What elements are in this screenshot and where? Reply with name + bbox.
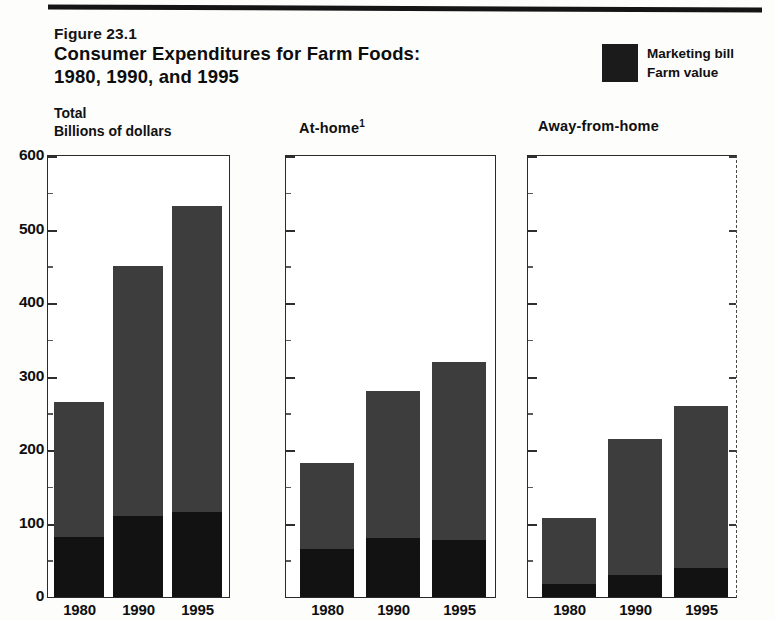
- axis-minor-tick-450: [286, 266, 291, 268]
- y-tick-label-500: 500: [19, 220, 44, 238]
- axis-tick-right-100: [729, 524, 736, 526]
- x-tick-label-at-home-1995: 1995: [443, 601, 476, 618]
- panel-title-at-home-footnote: 1: [359, 118, 365, 129]
- axis-tick-right-300: [729, 377, 736, 379]
- axis-tick-500: [286, 230, 295, 232]
- bar-segment-farm-value: [366, 538, 420, 597]
- bar-segment-marketing-bill: [608, 439, 662, 575]
- bar-away-from-home-1990: [608, 439, 662, 597]
- axis-tick-500: [48, 230, 57, 232]
- axis-minor-tick-550: [286, 193, 291, 195]
- axis-tick-200: [528, 450, 537, 452]
- bar-segment-marketing-bill: [300, 463, 354, 549]
- axis-minor-tick-350: [286, 340, 291, 342]
- bar-segment-marketing-bill: [366, 391, 420, 538]
- axis-minor-tick-550: [48, 193, 53, 195]
- x-tick-label-at-home-1990: 1990: [377, 601, 410, 618]
- figure-title-line-1: Consumer Expenditures for Farm Foods:: [54, 43, 574, 66]
- bar-total-1995: [172, 206, 222, 597]
- axis-minor-tick-450: [48, 266, 53, 268]
- bar-segment-farm-value: [608, 575, 662, 597]
- figure-title-line-2: 1980, 1990, and 1995: [54, 66, 574, 89]
- x-tick-label-away-from-home-1990: 1990: [619, 601, 652, 618]
- bar-total-1980: [54, 402, 104, 597]
- axis-minor-tick-50: [48, 560, 53, 562]
- axis-minor-tick-250: [528, 413, 533, 415]
- top-rule-divider: [48, 4, 762, 12]
- panel-away-from-home-plot-area: [528, 156, 736, 597]
- figure-container: Figure 23.1 Consumer Expenditures for Fa…: [0, 0, 775, 620]
- y-tick-label-400: 400: [19, 293, 44, 311]
- x-tick-label-total-1980: 1980: [63, 601, 96, 618]
- axis-tick-400: [528, 303, 537, 305]
- bar-segment-farm-value: [172, 512, 222, 597]
- panel-away-from-home: [527, 155, 737, 598]
- axis-minor-tick-450: [528, 266, 533, 268]
- bar-segment-marketing-bill: [113, 266, 163, 516]
- bar-at-home-1990: [366, 391, 420, 597]
- axis-tick-300: [286, 377, 295, 379]
- panel-title-at-home: At-home1: [299, 118, 365, 136]
- axis-tick-600: [528, 156, 537, 158]
- legend-item-farm-value: Farm value: [647, 63, 734, 82]
- axis-tick-400: [286, 303, 295, 305]
- bar-away-from-home-1980: [542, 518, 596, 597]
- axis-minor-tick-50: [528, 560, 533, 562]
- bar-segment-farm-value: [542, 584, 596, 597]
- axis-tick-right-400: [729, 303, 736, 305]
- legend-label-group: Marketing bill Farm value: [647, 44, 734, 82]
- axis-tick-right-200: [729, 450, 736, 452]
- axis-tick-right-600: [729, 156, 736, 158]
- axis-tick-600: [286, 156, 295, 158]
- y-tick-label-100: 100: [19, 514, 44, 532]
- bar-segment-farm-value: [674, 568, 728, 597]
- y-tick-label-0: 0: [36, 587, 44, 605]
- bar-segment-marketing-bill: [432, 362, 486, 540]
- bar-segment-farm-value: [300, 549, 354, 597]
- axis-minor-tick-50: [286, 560, 291, 562]
- axis-minor-tick-250: [286, 413, 291, 415]
- axis-minor-tick-250: [48, 413, 53, 415]
- bar-total-1990: [113, 266, 163, 597]
- axis-minor-tick-350: [528, 340, 533, 342]
- panel-title-at-home-text: At-home: [299, 120, 359, 136]
- axis-minor-tick-150: [286, 487, 291, 489]
- bar-away-from-home-1995: [674, 406, 728, 597]
- figure-heading: Figure 23.1 Consumer Expenditures for Fa…: [54, 24, 574, 88]
- bar-segment-farm-value: [113, 516, 163, 597]
- panel-at-home: [285, 155, 496, 598]
- axis-tick-100: [528, 524, 537, 526]
- bar-segment-marketing-bill: [542, 518, 596, 583]
- bar-segment-marketing-bill: [172, 206, 222, 512]
- axis-minor-tick-150: [48, 487, 53, 489]
- bar-segment-farm-value: [432, 540, 486, 597]
- x-tick-label-at-home-1980: 1980: [311, 601, 344, 618]
- axis-tick-200: [286, 450, 295, 452]
- axis-tick-100: [286, 524, 295, 526]
- y-axis-label: Total Billions of dollars: [54, 104, 171, 140]
- axis-tick-400: [48, 303, 57, 305]
- y-tick-label-600: 600: [19, 146, 44, 164]
- x-tick-label-away-from-home-1995: 1995: [685, 601, 718, 618]
- bar-segment-marketing-bill: [674, 406, 728, 568]
- axis-tick-300: [48, 377, 57, 379]
- axis-tick-right-500: [729, 230, 736, 232]
- bar-at-home-1980: [300, 463, 354, 597]
- legend-swatch: [602, 44, 638, 82]
- y-axis-tick-labels: 6005004003002001000: [0, 0, 50, 620]
- y-axis-label-line-2: Billions of dollars: [54, 122, 171, 140]
- chart-legend: Marketing bill Farm value: [602, 44, 734, 82]
- axis-minor-tick-550: [528, 193, 533, 195]
- y-tick-label-200: 200: [19, 440, 44, 458]
- panel-at-home-plot-area: [286, 156, 495, 597]
- bar-segment-farm-value: [54, 537, 104, 597]
- axis-tick-600: [48, 156, 57, 158]
- legend-item-marketing-bill: Marketing bill: [647, 44, 734, 63]
- panel-title-away-from-home: Away-from-home: [538, 118, 659, 134]
- bar-at-home-1995: [432, 362, 486, 597]
- figure-number: Figure 23.1: [54, 24, 574, 43]
- panel-total-plot-area: [48, 156, 229, 597]
- panel-total: [47, 155, 230, 598]
- y-axis-label-line-1: Total: [54, 104, 171, 122]
- axis-minor-tick-350: [48, 340, 53, 342]
